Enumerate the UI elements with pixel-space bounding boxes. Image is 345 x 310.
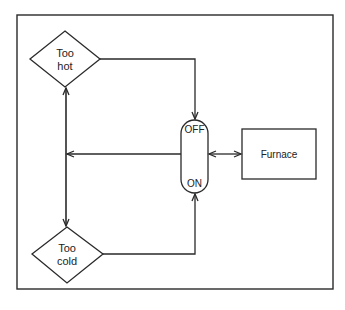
too-cold-label: Too cold: [47, 242, 87, 268]
switch-on-label: ON: [181, 177, 208, 190]
too-cold-to-on-line: [103, 194, 195, 254]
too-hot-to-off-line: [100, 59, 195, 119]
too-hot-line1: Too: [45, 47, 85, 60]
too-hot-line2: hot: [45, 60, 85, 73]
too-cold-line2: cold: [47, 255, 87, 268]
switch-off-label: OFF: [181, 123, 208, 136]
too-hot-label: Too hot: [45, 47, 85, 73]
too-cold-line1: Too: [47, 242, 87, 255]
furnace-label: Furnace: [242, 148, 316, 161]
